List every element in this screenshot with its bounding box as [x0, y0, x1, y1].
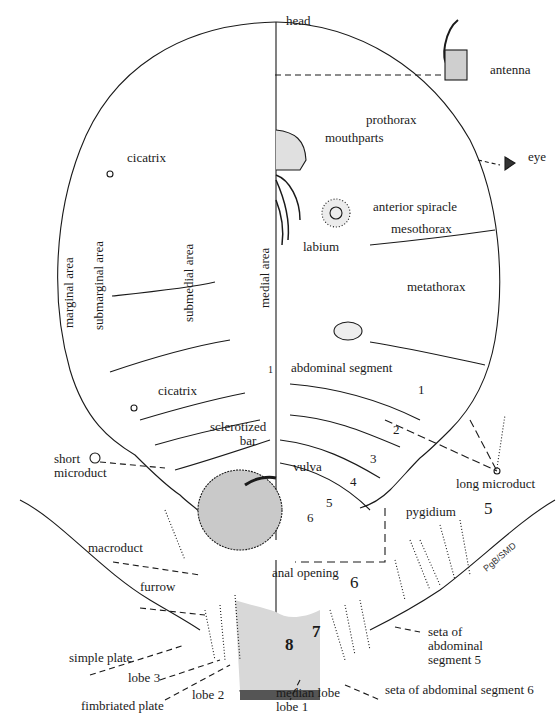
label-cicatrix-lower: cicatrix: [158, 384, 197, 398]
posterior-spiracle: [334, 322, 362, 340]
label-simple-plate: simple plate: [69, 651, 132, 665]
pygidium-margin-left: [20, 500, 200, 630]
label-segment-6-small: 6: [307, 511, 314, 525]
label-lobe-1: lobe 1: [276, 700, 340, 714]
label-mesothorax: mesothorax: [391, 222, 452, 236]
body-outline-right: [276, 22, 500, 508]
label-sclerotized-bar: sclerotized bar: [210, 420, 266, 448]
label-long-microduct: long microduct: [456, 477, 535, 491]
label-median-lobe: median lobe lobe 1: [276, 686, 340, 714]
label-mouthparts: mouthparts: [325, 131, 384, 145]
label-metathorax: metathorax: [407, 280, 465, 294]
sclerotized-bar-region: [198, 470, 282, 550]
label-segment-3: 3: [370, 452, 377, 466]
mouthparts: [276, 130, 306, 170]
label-seta-seg6: seta of abdominal segment 6: [385, 683, 534, 697]
label-segment-1: 1: [418, 383, 425, 397]
label-segment-5-small: 5: [326, 496, 333, 510]
label-head: head: [286, 14, 311, 28]
label-pygidium: pygidium: [406, 505, 456, 519]
label-medial-area: medial area: [258, 248, 272, 308]
label-abdominal-segment: abdominal segment: [291, 361, 392, 375]
label-short-microduct: short microduct: [54, 452, 107, 480]
label-microduct-line2: microduct: [54, 466, 107, 480]
label-segment-5: segment 5: [428, 653, 483, 667]
morphology-drawing: [0, 0, 557, 727]
label-submedial-area: submedial area: [182, 244, 196, 322]
label-sclerotized-line1: sclerotized: [210, 420, 266, 434]
label-lobe-2: lobe 2: [192, 688, 224, 702]
label-submarginal-area: submarginal area: [92, 241, 106, 330]
label-furrow: furrow: [140, 580, 175, 594]
label-macroduct: macroduct: [88, 541, 143, 555]
label-seta-seg5: seta of abdominal segment 5: [428, 625, 483, 667]
label-short-line1: short: [54, 452, 107, 466]
anterior-spiracle: [322, 199, 350, 227]
label-labium: labium: [303, 240, 339, 254]
label-pygidium-seg-5: 5: [484, 500, 493, 518]
label-anterior-spiracle: anterior spiracle: [373, 200, 457, 214]
label-antenna: antenna: [490, 63, 530, 77]
label-pygidium-seg-7: 7: [312, 625, 321, 639]
label-pygidium-seg-6: 6: [350, 574, 359, 592]
label-abdominal: abdominal: [428, 639, 483, 653]
label-median-lobe-line1: median lobe: [276, 686, 340, 700]
label-marginal-area: marginal area: [62, 257, 76, 328]
pygidium-margin-right: [370, 500, 555, 630]
label-seta-of: seta of: [428, 625, 483, 639]
label-lobe-3: lobe 3: [128, 671, 160, 685]
label-vulva: vulva: [293, 460, 322, 474]
label-segment-2: 2: [393, 423, 400, 437]
label-anal-opening: anal opening: [272, 566, 339, 580]
label-fimbriated-plate: fimbriated plate: [81, 699, 164, 713]
label-eye: eye: [528, 150, 546, 164]
label-segment-4: 4: [350, 475, 357, 489]
label-prothorax: prothorax: [366, 113, 417, 127]
label-medial-seg-1: 1: [268, 363, 273, 377]
label-bar-line2: bar: [210, 434, 266, 448]
label-cicatrix-upper: cicatrix: [127, 151, 166, 165]
label-pygidium-seg-8: 8: [285, 638, 294, 652]
